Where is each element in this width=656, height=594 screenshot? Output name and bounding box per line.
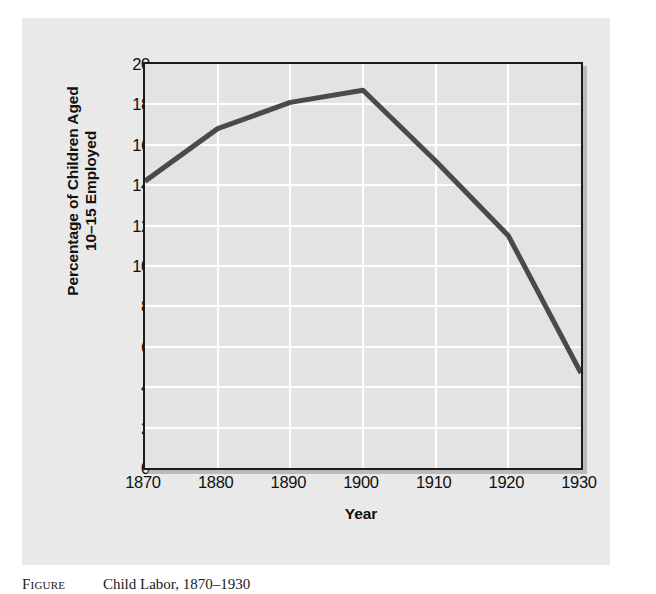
y-axis-title-line-1: Percentage of Children Aged <box>64 86 82 295</box>
x-axis-tick-label: 1870 <box>125 473 161 492</box>
series-polyline <box>145 90 581 373</box>
x-axis-tick-label: 1930 <box>561 473 597 492</box>
figure-caption-label: Figure <box>22 576 65 592</box>
plot-area <box>143 62 583 470</box>
x-axis-tick-label: 1880 <box>198 473 234 492</box>
x-axis-tick-label: 1920 <box>489 473 525 492</box>
x-axis-tick-label: 1910 <box>416 473 452 492</box>
x-axis-tick-labels: 1870188018901900191019201930 <box>143 473 579 499</box>
x-axis-tick-label: 1890 <box>271 473 307 492</box>
plot-inner <box>145 64 581 468</box>
figure-panel: Percentage of Children Aged 10–15 Employ… <box>22 18 610 565</box>
y-axis-title: Percentage of Children Aged 10–15 Employ… <box>59 41 105 341</box>
figure-caption: Figure Child Labor, 1870–1930 <box>22 576 642 593</box>
y-axis-title-line-2: 10–15 Employed <box>82 131 100 251</box>
series-line-chart <box>145 64 581 468</box>
figure-caption-text: Child Labor, 1870–1930 <box>103 576 250 592</box>
x-axis-tick-label: 1900 <box>343 473 379 492</box>
x-axis-title: Year <box>143 505 579 523</box>
